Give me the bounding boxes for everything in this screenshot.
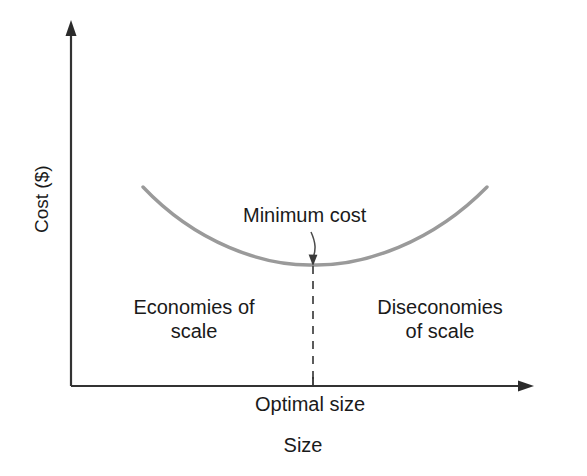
y-axis (66, 20, 77, 386)
x-axis-label: Size (248, 434, 358, 458)
minimum-cost-arrow-shaft (311, 232, 315, 258)
y-axis-arrowhead (66, 20, 77, 36)
x-axis-arrowhead (518, 381, 534, 392)
y-axis-label: Cost ($) (31, 99, 53, 299)
cost-curve-figure: Cost ($) Minimum cost Economies ofscale … (0, 0, 587, 476)
x-axis-tick-label-optimal-size: Optimal size (230, 393, 390, 417)
x-axis (71, 381, 534, 392)
annotation-diseconomies-of-scale: Diseconomiesof scale (358, 296, 522, 343)
diseconomies-line-1: Diseconomies (377, 296, 503, 318)
diseconomies-line-2: of scale (406, 320, 475, 342)
economies-line-2: scale (171, 320, 218, 342)
annotation-economies-of-scale: Economies ofscale (118, 296, 270, 343)
economies-line-1: Economies of (133, 296, 254, 318)
minimum-cost-arrow (309, 232, 318, 266)
annotation-minimum-cost: Minimum cost (243, 204, 366, 228)
